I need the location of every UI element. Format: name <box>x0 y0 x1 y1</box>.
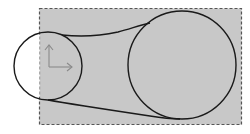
diagram-canvas <box>0 0 250 134</box>
